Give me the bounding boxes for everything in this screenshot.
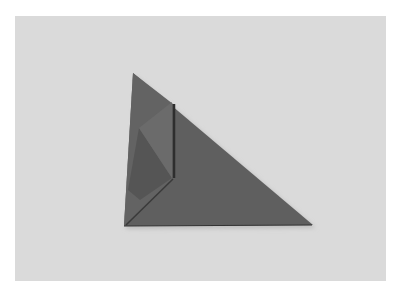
origami-figure — [0, 0, 398, 297]
